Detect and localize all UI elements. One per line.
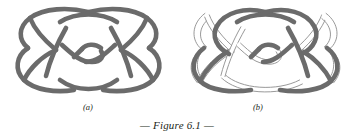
figure-caption: — Figure 6.1 — [0, 119, 354, 131]
strand-b-top-arc [237, 15, 294, 23]
strand-b-centre-cap [259, 45, 278, 49]
strand-a-right-lobe-upper [121, 18, 147, 50]
strand-a-left-lobe-upper [30, 18, 56, 50]
figure-panels [0, 0, 354, 104]
panel-label-a: (a) [58, 101, 118, 113]
strand-a-top-arc [60, 15, 117, 23]
strand-a-bottom-arc [60, 80, 117, 89]
panel-label-b: (b) [228, 101, 288, 113]
strand-a-centre-stub [74, 49, 82, 57]
panel-labels: (a) (b) [0, 101, 354, 118]
strand-a-centre-cap [82, 45, 101, 49]
knot-diagram-b [177, 0, 354, 104]
knot-diagram-a [0, 0, 177, 104]
figure-root: (a) (b) — Figure 6.1 — [0, 0, 354, 140]
strand-b-centre-stub [251, 49, 259, 57]
